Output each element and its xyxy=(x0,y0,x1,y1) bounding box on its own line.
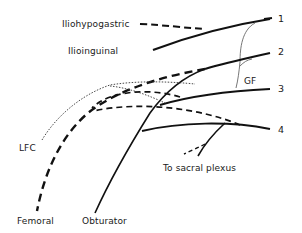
root-2-label: 2 xyxy=(278,47,284,57)
iliohypogastric-branch xyxy=(140,24,205,29)
gf-label: GF xyxy=(244,77,256,86)
root-1-label: 1 xyxy=(278,14,284,24)
nerve-lines xyxy=(0,0,302,233)
lumbar-plexus-diagram: Iliohypogastric Ilioinguinal GF LFC Femo… xyxy=(0,0,302,233)
root-4-femoral-dashed xyxy=(93,106,240,125)
root-3-label: 3 xyxy=(278,84,284,94)
obturator-label: Obturator xyxy=(82,217,127,226)
sacral-plexus-label: To sacral plexus xyxy=(163,164,236,173)
femoral-label: Femoral xyxy=(17,217,54,226)
root-3-femoral-dashed xyxy=(92,92,180,108)
root-3-trunk xyxy=(160,89,270,105)
femoral-nerve xyxy=(37,69,205,211)
lfc-label: LFC xyxy=(19,144,36,153)
root-4-label: 4 xyxy=(278,125,284,135)
sacral-branch xyxy=(198,123,225,156)
lfc-branch xyxy=(42,82,195,140)
obturator-nerve xyxy=(95,69,205,213)
ilioinguinal-label: Ilioinguinal xyxy=(68,47,118,56)
root-4-trunk xyxy=(142,124,270,131)
root-1-trunk xyxy=(153,19,270,50)
root-2-trunk xyxy=(205,53,270,69)
iliohypogastric-label: Iliohypogastric xyxy=(62,20,130,29)
